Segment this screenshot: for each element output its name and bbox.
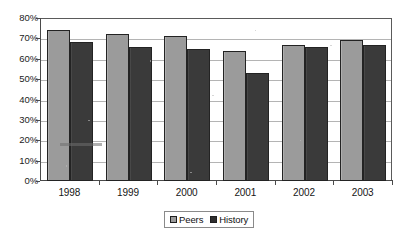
scan-artifact-speck — [190, 172, 192, 173]
legend-entry-history[interactable]: History — [210, 214, 248, 225]
bar-group — [41, 18, 100, 181]
y-axis-tick-mark — [36, 181, 40, 182]
legend-label: Peers — [179, 214, 203, 225]
y-axis-tick-label: 60% — [2, 54, 38, 64]
bar-history-2000 — [187, 49, 210, 181]
x-axis-label-1998: 1998 — [39, 187, 99, 199]
x-axis-tick-mark — [216, 181, 217, 185]
x-axis-tick-mark — [275, 181, 276, 185]
bar-group — [334, 18, 393, 181]
legend-label: History — [219, 214, 248, 225]
x-axis-label-1999: 1999 — [98, 187, 158, 199]
scan-artifact-speck — [330, 45, 332, 46]
bar-peers-2002 — [282, 45, 305, 182]
x-axis-label-2003: 2003 — [333, 187, 393, 199]
y-axis-tick-label: 30% — [2, 115, 38, 125]
chart-legend: PeersHistory — [164, 211, 254, 228]
scan-artifact-speck — [300, 140, 301, 141]
x-axis-tick-mark — [333, 181, 334, 185]
bar-history-1998 — [70, 42, 93, 181]
bar-group — [100, 18, 159, 181]
y-axis-tick-label: 0% — [2, 176, 38, 186]
scan-artifact-speck — [66, 165, 67, 167]
x-axis-tick-mark — [392, 181, 393, 185]
scan-artifact-speck — [150, 60, 151, 62]
bar-group — [158, 18, 217, 181]
x-axis-tick-mark — [99, 181, 100, 185]
x-axis-label-2002: 2002 — [274, 187, 334, 199]
y-axis: 0%10%20%30%40%50%60%70%80% — [0, 0, 38, 237]
bars-layer — [41, 18, 392, 181]
y-axis-tick-label: 10% — [2, 156, 38, 166]
legend-swatch-peers-icon — [170, 216, 177, 223]
bar-history-2001 — [246, 73, 269, 181]
scan-artifact-smudge — [60, 143, 102, 146]
scan-artifact-speck — [88, 120, 90, 121]
bar-peers-2003 — [340, 40, 363, 181]
x-axis-label-2000: 2000 — [157, 187, 217, 199]
bar-peers-2001 — [223, 51, 246, 181]
legend-swatch-history-icon — [210, 216, 217, 223]
y-axis-tick-label: 80% — [2, 13, 38, 23]
legend-entry-peers[interactable]: Peers — [170, 214, 203, 225]
bar-group — [217, 18, 276, 181]
y-axis-tick-label: 70% — [2, 33, 38, 43]
bar-history-2003 — [363, 45, 386, 182]
x-axis-tick-mark — [157, 181, 158, 185]
y-axis-tick-label: 40% — [2, 95, 38, 105]
bar-peers-1998 — [47, 30, 70, 181]
y-axis-tick-label: 20% — [2, 135, 38, 145]
bar-group — [276, 18, 335, 181]
scan-artifact-speck — [255, 30, 256, 31]
bar-peers-2000 — [164, 36, 187, 181]
x-axis-label-2001: 2001 — [215, 187, 275, 199]
bar-history-2002 — [305, 47, 328, 181]
bar-peers-1999 — [106, 34, 129, 181]
y-axis-tick-label: 50% — [2, 74, 38, 84]
bar-history-1999 — [129, 47, 152, 181]
scan-artifact-speck — [212, 95, 214, 96]
bar-chart: 0%10%20%30%40%50%60%70%80% 1998199920002… — [0, 0, 409, 237]
